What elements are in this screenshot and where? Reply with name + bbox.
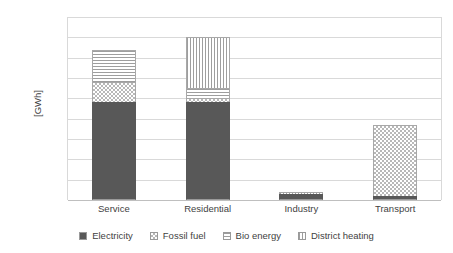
legend-label: Fossil fuel bbox=[163, 230, 206, 241]
bar-segment-electricity[interactable] bbox=[279, 194, 323, 200]
legend-swatch-bio-energy-icon bbox=[223, 232, 231, 240]
legend-label: Bio energy bbox=[236, 230, 281, 241]
bar-transport[interactable] bbox=[373, 125, 417, 200]
bar-service[interactable] bbox=[92, 50, 136, 200]
chart-legend: ElectricityFossil fuelBio energyDistrict… bbox=[0, 230, 453, 241]
legend-item-bio-energy[interactable]: Bio energy bbox=[223, 230, 281, 241]
legend-item-fossil-fuel[interactable]: Fossil fuel bbox=[150, 230, 206, 241]
legend-item-electricity[interactable]: Electricity bbox=[79, 230, 133, 241]
legend-item-district-heating[interactable]: District heating bbox=[298, 230, 374, 241]
y-axis-title: [GWh] bbox=[32, 69, 43, 139]
bars-layer bbox=[67, 17, 442, 200]
stacked-bar-chart: [GWh] 9000800070006000500040003000200010… bbox=[0, 0, 453, 253]
bar-segment-fossil-fuel[interactable] bbox=[373, 125, 417, 196]
bar-segment-electricity[interactable] bbox=[373, 196, 417, 200]
legend-label: Electricity bbox=[92, 230, 133, 241]
legend-swatch-fossil-fuel-icon bbox=[150, 232, 158, 240]
legend-swatch-electricity-icon bbox=[79, 232, 87, 240]
bar-segment-electricity[interactable] bbox=[92, 102, 136, 200]
bar-segment-bio-energy[interactable] bbox=[92, 50, 136, 83]
gridline bbox=[68, 200, 441, 201]
legend-swatch-district-heating-icon bbox=[298, 232, 306, 240]
bar-residential[interactable] bbox=[186, 37, 230, 200]
bar-segment-bio-energy[interactable] bbox=[186, 88, 230, 98]
bar-segment-fossil-fuel[interactable] bbox=[92, 82, 136, 102]
bar-segment-electricity[interactable] bbox=[186, 102, 230, 200]
bar-segment-district-heating[interactable] bbox=[186, 37, 230, 88]
bar-industry[interactable] bbox=[279, 192, 323, 200]
legend-label: District heating bbox=[311, 230, 374, 241]
x-axis-tick-label-transport: Transport bbox=[340, 203, 450, 214]
